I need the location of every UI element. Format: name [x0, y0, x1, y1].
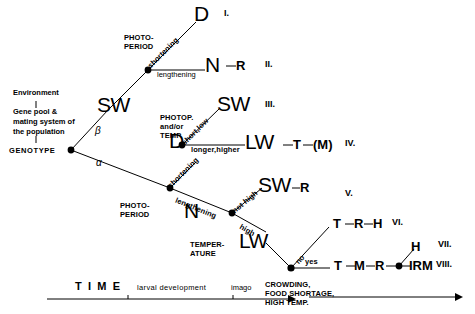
outcome-SW-III: SW: [217, 93, 250, 115]
roman-viii: VIII.: [436, 260, 452, 269]
edge-genotype-alpha: [71, 150, 170, 188]
timeline-label-imago: imago: [231, 284, 251, 292]
outcome-H-VII: H: [411, 240, 420, 254]
timeline-arrowhead-right: [455, 293, 463, 301]
label-genotype: GENOTYPE: [9, 146, 55, 156]
outcome-R-VI: R: [354, 217, 363, 231]
roman-iv: IV.: [345, 139, 355, 148]
timeline-label-larval-development: larval development: [137, 284, 206, 292]
outcome-LW-bottom: LW: [239, 230, 268, 252]
diagram-canvas: Environment Gene pool & mating system of…: [0, 0, 475, 314]
outcome-R-VIII: R: [375, 259, 384, 273]
outcome-D-mid: D: [169, 130, 184, 152]
label-photoperiod-top-line1: PHOTO-: [124, 34, 154, 42]
label-photop-temp-line1: PHOTOP.: [160, 114, 193, 122]
edge-label-longer-higher: longer,higher: [191, 146, 240, 154]
node-genotype: [68, 147, 75, 154]
roman-ii: II.: [265, 60, 273, 69]
label-beta: β: [95, 126, 101, 137]
timeline-label-stress-line3: HIGH TEMP.: [265, 299, 309, 307]
label-gene-pool-line3: the population: [13, 127, 65, 137]
outcome-T-after-LW: T: [293, 138, 301, 152]
label-environment: Environment: [13, 88, 59, 98]
edge-label-lengthening-top: lengthening: [157, 71, 196, 79]
roman-i: I.: [224, 9, 229, 18]
outcome-T-VI: T: [333, 217, 341, 231]
outcome-H-VI: H: [373, 217, 382, 231]
outcome-N-mid: N: [184, 200, 199, 222]
outcome-D-top: D: [194, 3, 209, 25]
roman-vi: VI.: [392, 218, 403, 227]
label-temperature-line1: TEMPER-: [190, 241, 224, 249]
roman-iii: III.: [265, 100, 275, 109]
label-photoperiod-mid-line2: PERIOD: [120, 211, 149, 219]
roman-v: V.: [345, 189, 353, 198]
outcome-SW-V: SW: [258, 174, 291, 196]
outcome-M-after-T: (M): [313, 138, 333, 152]
diagram-edges: [0, 0, 475, 314]
label-gene-pool-line1: Gene pool &: [13, 107, 57, 117]
edge-LW-to-node5: [266, 243, 291, 268]
outcome-T-VIII: T: [334, 259, 342, 273]
node-irm: [396, 263, 403, 270]
outcome-R-after-SW-V: R: [300, 181, 309, 195]
label-gene-pool-line2: mating system of: [13, 117, 75, 127]
timeline-label-stress-line1: CROWDING,: [265, 281, 310, 289]
label-alpha: α: [96, 158, 102, 169]
label-photoperiod-top-line2: PERIOD: [124, 43, 153, 51]
outcome-N-top: N: [205, 54, 220, 76]
outcome-R-after-N: R: [236, 59, 245, 73]
outcome-IRM-VIII: IRM: [409, 259, 433, 273]
outcome-LW-IV: LW: [245, 131, 274, 153]
label-photoperiod-mid-line1: PHOTO-: [120, 202, 150, 210]
roman-vii: VII.: [438, 240, 452, 249]
label-temperature-line2: ATURE: [190, 250, 216, 258]
outcome-M-VIII: M: [354, 259, 365, 273]
node-stress-decision: [287, 264, 294, 271]
timeline-label-stress-line2: FOOD SHORTAGE,: [265, 290, 334, 298]
timeline-label-time: T I M E: [75, 281, 122, 293]
outcome-SW-left: SW: [97, 94, 130, 116]
edge-label-yes: yes: [305, 258, 318, 266]
